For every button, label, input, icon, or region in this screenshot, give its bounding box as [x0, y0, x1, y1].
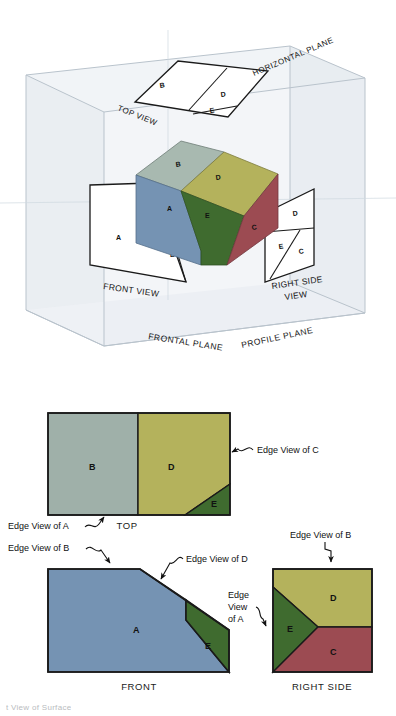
- ortho-front-letter-e: E: [205, 641, 211, 651]
- orthographic-projection-figure: B D E TOP VIEW A E FRONT VIEW D E C RIGH…: [0, 0, 396, 716]
- edge-view-of-b-front-label: Edge View of B: [8, 543, 69, 553]
- solid-letter-d: D: [215, 173, 221, 181]
- ortho-right-letter-e: E: [287, 624, 293, 634]
- edge-view-of-c-label: Edge View of C: [257, 445, 319, 455]
- figure-caption-cutoff: t View of Surface: [6, 703, 71, 714]
- solid-letter-a: A: [167, 205, 172, 212]
- edge-view-of-a-right-label-line3: of A: [228, 614, 244, 624]
- edge-view-of-b-right-label: Edge View of B: [290, 530, 351, 540]
- edge-view-of-a-top-leader: [85, 517, 104, 527]
- pictorial-top-letter-b: B: [159, 81, 165, 89]
- solid-letter-b: B: [175, 160, 181, 168]
- solid-letter-e: E: [205, 212, 210, 219]
- ortho-top-view: B D E TOP Edge View of A Edge View of C: [8, 413, 319, 531]
- ortho-right-letter-d: D: [330, 593, 337, 603]
- edge-view-of-a-right-leader: [256, 607, 266, 626]
- ortho-top-letter-d: D: [168, 462, 175, 472]
- edge-view-of-a-top-label: Edge View of A: [8, 521, 69, 531]
- edge-view-of-c-leader: [232, 448, 253, 452]
- edge-view-of-d-leader: [161, 557, 183, 579]
- pictorial-front-letter-a: A: [116, 234, 121, 241]
- ortho-right-side-view: D E C RIGHT SIDE Edge View of B Edge Vie…: [228, 530, 372, 692]
- ortho-front-letter-a: A: [133, 625, 140, 635]
- ortho-front-caption: FRONT: [121, 681, 157, 692]
- edge-view-of-a-right-label-line2: View: [228, 602, 248, 612]
- edge-view-of-b-front-leader: [86, 547, 110, 563]
- edge-view-of-a-right-label-line1: Edge: [228, 590, 249, 600]
- solid-letter-c: C: [251, 223, 257, 231]
- edge-view-of-b-right-leader: [325, 542, 331, 562]
- ortho-top-letter-e: E: [211, 499, 217, 509]
- ortho-top-letter-b: B: [89, 462, 96, 472]
- ortho-top-caption: TOP: [116, 520, 137, 531]
- pictorial-top-letter-d: D: [220, 90, 226, 98]
- profile-plane-label: PROFILE PLANE: [240, 325, 314, 350]
- pictorial-right-letter-d: D: [292, 209, 298, 217]
- ortho-right-letter-c: C: [330, 647, 337, 657]
- ortho-front-view: A E FRONT Edge View of B Edge View of D: [8, 543, 248, 692]
- pictorial-right-letter-c: C: [298, 247, 304, 255]
- glass-box-pictorial: B D E TOP VIEW A E FRONT VIEW D E C RIGH…: [0, 30, 396, 353]
- ortho-right-caption: RIGHT SIDE: [292, 681, 352, 692]
- edge-view-of-d-label: Edge View of D: [186, 554, 248, 564]
